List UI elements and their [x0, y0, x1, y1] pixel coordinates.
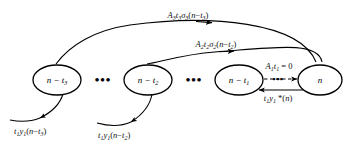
edge-nt3-output: [10, 94, 63, 121]
diagram-canvas: n − t3 n − t2 n − t1 n ••• ••• ••• A3t3σ…: [0, 0, 352, 150]
edge-arc-n-to-nt2: [147, 47, 322, 64]
node-n-minus-t2[interactable]: n − t2: [124, 65, 172, 95]
diagram-svg: n − t3 n − t2 n − t1 n ••• ••• ••• A3t3σ…: [0, 0, 352, 150]
node-label-n: n: [318, 75, 323, 85]
node-label-n-minus-t3: n − t3: [47, 75, 68, 86]
arc-top-label: A3t3σ3(n−t3): [167, 10, 209, 21]
node-n-minus-t1[interactable]: n − t1: [215, 65, 263, 95]
node-label-n-minus-t2: n − t2: [138, 75, 159, 86]
arc-mid-label: A2t2σ2(n−t2): [195, 39, 237, 50]
ellipsis-dashed-edge: •••: [273, 74, 284, 84]
return-edge-label: t1y1 *(n): [264, 93, 293, 104]
node-n-minus-t3[interactable]: n − t3: [33, 65, 81, 95]
output-label-t3: t1y1(n−t3): [14, 126, 46, 137]
ellipsis-middle: •••: [186, 72, 203, 87]
edge-arc-n-to-nt3: [56, 20, 316, 64]
node-label-n-minus-t1: n − t1: [229, 75, 250, 86]
dashed-edge-label: A1t1 = 0: [265, 61, 293, 72]
node-n[interactable]: n: [298, 65, 342, 95]
ellipsis-left: •••: [95, 72, 112, 87]
output-label-t2: t1y1(n−t2): [98, 130, 130, 141]
edge-nt2-output: [97, 94, 152, 126]
